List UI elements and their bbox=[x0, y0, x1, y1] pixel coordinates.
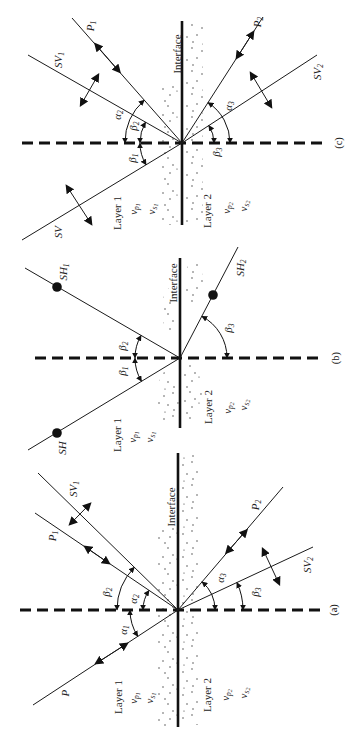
angle-arc-beta3 bbox=[209, 126, 214, 144]
label-subscript: 3 bbox=[219, 573, 228, 578]
label-subsubscript: 1 bbox=[135, 692, 141, 695]
label-subscript: 3 bbox=[227, 323, 236, 328]
panel-c: P1 SV1 SV P2 SV2 α2 β2 β1 α3 β3 Interfac… bbox=[22, 17, 345, 240]
layer1-vp-label: vp1 bbox=[126, 431, 140, 443]
ray-reflected-p bbox=[72, 18, 182, 143]
interface-label: Interface bbox=[165, 487, 177, 526]
ray-label-reflected-sv: SV1 bbox=[52, 52, 66, 68]
angle-label-beta3: β3 bbox=[222, 323, 236, 333]
angle-label-alpha1: α1 bbox=[117, 625, 131, 635]
particle-motion-arrow bbox=[264, 551, 278, 582]
label-subscript: 3 bbox=[227, 101, 236, 106]
layer1-vs-label: vs1 bbox=[143, 693, 157, 704]
label-subsubscript: 1 bbox=[153, 204, 159, 207]
angle-arc-beta1 bbox=[140, 143, 146, 165]
label-base: SV bbox=[52, 225, 64, 239]
label-subscript: 1 bbox=[51, 531, 60, 535]
wave-partitioning-figure: P1 SV1 SV P2 SV2 α2 β2 β1 α3 β3 Interfac… bbox=[0, 0, 351, 740]
label-subscript: 2 bbox=[316, 64, 325, 68]
ray-label-reflected-p: P1 bbox=[84, 21, 98, 32]
angle-label-beta1: β1 bbox=[126, 153, 140, 163]
layer1-label: Layer 1 bbox=[111, 418, 123, 452]
ray-transmitted-sh bbox=[180, 247, 238, 358]
angle-label-beta1: β1 bbox=[116, 366, 130, 376]
angle-label-beta3: β3 bbox=[249, 587, 263, 597]
ray-label-incident-p: P bbox=[59, 689, 71, 697]
particle-motion-arrow bbox=[238, 34, 252, 56]
label-subscript: 2 bbox=[121, 341, 130, 345]
panel-b: SH1 SH SH2 β2 β1 β3 Interface Layer 1 vp… bbox=[25, 247, 342, 455]
interface-speckle bbox=[185, 260, 203, 304]
ray-label-reflected-sv: SV1 bbox=[67, 481, 81, 497]
ray-incident-sh bbox=[28, 358, 180, 450]
angle-arc-alpha2 bbox=[143, 590, 149, 610]
layer2-label: Layer 2 bbox=[202, 390, 214, 424]
label-subscript: 2 bbox=[256, 17, 265, 21]
ray-reflected-sh bbox=[25, 268, 180, 358]
ray-incident-sv bbox=[22, 143, 182, 240]
label-subsubscript: 2 bbox=[228, 202, 234, 205]
label-subscript: 2 bbox=[116, 110, 125, 114]
layer2-vp-label: vp2 bbox=[221, 402, 235, 414]
ray-label-reflected-p: P1 bbox=[46, 531, 60, 542]
label-subsubscript: 1 bbox=[151, 693, 157, 696]
label-subsubscript: 2 bbox=[229, 402, 235, 405]
angle-arc-beta3 bbox=[202, 316, 227, 358]
layer2-vp-label: vp2 bbox=[220, 202, 234, 214]
particle-motion-arrow bbox=[228, 532, 245, 551]
label-subscript: 1 bbox=[89, 21, 98, 25]
interface-label: Interface bbox=[171, 34, 183, 73]
angle-label-alpha2: α2 bbox=[127, 594, 141, 604]
ray-label-transmitted-p: P2 bbox=[251, 17, 265, 29]
angle-label-beta2: β2 bbox=[127, 121, 141, 131]
label-subscript: 2 bbox=[132, 121, 141, 125]
label-base: SH bbox=[56, 440, 68, 455]
label-base: SH bbox=[234, 262, 246, 277]
layer1-vp-label: vp1 bbox=[127, 692, 141, 704]
particle-motion-arrow bbox=[87, 548, 107, 562]
interface-label: Interface bbox=[167, 263, 179, 302]
layer2-vs-label: vs2 bbox=[237, 688, 251, 699]
label-subscript: 2 bbox=[306, 557, 315, 561]
particle-motion-arrow bbox=[252, 75, 270, 105]
ray-label-reflected-sh: SH1 bbox=[57, 263, 71, 280]
label-subscript: 1 bbox=[72, 481, 81, 485]
angle-arc-alpha1 bbox=[130, 610, 138, 636]
label-subscript: 2 bbox=[132, 594, 141, 598]
layer2-vp-label: vp2 bbox=[219, 689, 233, 701]
panel-a: P P1 SV1 P2 SV2 β2 α2 α1 α3 β3 Interface… bbox=[20, 453, 340, 727]
label-subscript: 1 bbox=[121, 366, 130, 370]
ray-transmitted-sv bbox=[178, 547, 313, 610]
panel-caption: (a) bbox=[328, 604, 340, 616]
layer2-label: Layer 2 bbox=[201, 194, 213, 228]
label-subsubscript: 2 bbox=[245, 400, 251, 403]
label-subscript: 2 bbox=[105, 587, 114, 591]
sh-particle-motion-dot bbox=[52, 282, 62, 292]
layer1-label: Layer 1 bbox=[112, 680, 124, 714]
interface-speckle bbox=[158, 528, 178, 726]
label-subscript: 3 bbox=[254, 587, 263, 592]
label-subsubscript: 2 bbox=[245, 688, 251, 691]
label-subsubscript: 1 bbox=[135, 203, 141, 206]
angle-label-alpha2: α2 bbox=[111, 110, 125, 120]
label-subscript: 3 bbox=[215, 147, 224, 152]
layer1-label: Layer 1 bbox=[111, 196, 123, 230]
layer2-vs-label: vs2 bbox=[237, 400, 251, 411]
angle-arc-beta2 bbox=[135, 335, 141, 358]
layer1-vs-label: vs1 bbox=[145, 204, 159, 215]
ray-label-transmitted-sh: SH2 bbox=[234, 259, 248, 276]
angle-label-beta2: β2 bbox=[116, 341, 130, 351]
angle-arc-beta2 bbox=[140, 122, 146, 143]
angle-label-alpha3: α3 bbox=[214, 573, 228, 583]
label-subsubscript: 2 bbox=[227, 689, 233, 692]
layer2-label: Layer 2 bbox=[201, 678, 213, 712]
particle-motion-arrow bbox=[98, 645, 125, 662]
particle-motion-arrow bbox=[68, 188, 90, 222]
panel-caption: (c) bbox=[333, 137, 345, 149]
label-base: SH bbox=[57, 266, 69, 281]
label-subsubscript: 2 bbox=[245, 201, 251, 204]
label-subsubscript: 1 bbox=[151, 432, 157, 435]
ray-label-incident-sh: SH bbox=[56, 440, 68, 455]
particle-motion-arrow bbox=[97, 46, 118, 70]
label-subscript: 1 bbox=[131, 153, 140, 157]
